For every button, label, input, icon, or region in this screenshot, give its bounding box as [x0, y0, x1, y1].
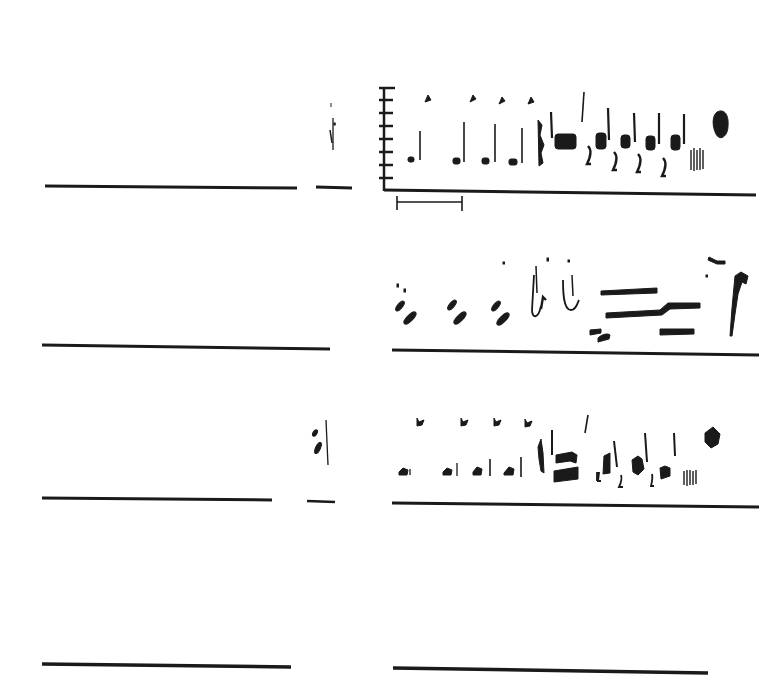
time-baseline-d	[42, 664, 291, 667]
spectrogram-h	[393, 668, 708, 673]
time-scale-bar-e	[397, 196, 462, 211]
time-baseline-c	[42, 498, 272, 500]
spectrogram-f	[392, 257, 759, 355]
spectrogram-graphics	[0, 0, 776, 693]
time-baseline-a-dialect2	[316, 187, 352, 188]
spectrogram-e	[408, 92, 728, 176]
time-baseline-b	[42, 345, 330, 349]
time-baseline-a	[45, 186, 297, 188]
time-baseline-c-training	[307, 501, 335, 502]
spectrogram-g	[392, 415, 759, 507]
